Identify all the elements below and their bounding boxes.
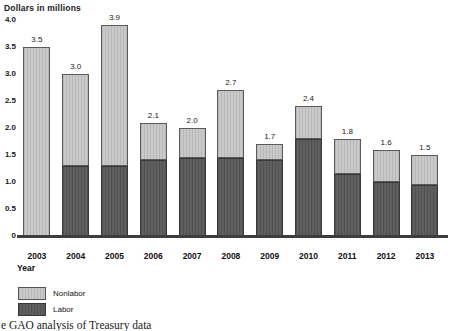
x-tick-label-2006: 2006 [134,251,173,261]
bar-2007-nonlabor-segment [179,128,206,158]
bar-2013-nonlabor-segment [411,155,438,185]
x-tick-label-2008: 2008 [212,251,251,261]
y-tick-label-3.0: 3.0 [0,69,16,79]
bar-2007-total-label: 2.0 [173,116,212,126]
bar-2012-total-label: 1.6 [367,138,406,148]
x-axis-line [17,235,448,238]
legend-swatch-nonlabor [18,287,46,300]
bar-2005-nonlabor-segment [101,25,128,165]
bar-2005-total-label: 3.9 [95,13,134,23]
bar-2005-labor-segment [101,166,128,236]
bar-2009-nonlabor-segment [256,144,283,160]
x-tick-label-2004: 2004 [56,251,95,261]
y-tick-label-1.0: 1.0 [0,177,16,187]
bar-2011-total-label: 1.8 [328,127,367,137]
x-tick-label-2012: 2012 [367,251,406,261]
bar-2006-nonlabor-segment [140,123,167,161]
x-axis-title: Year [17,263,35,273]
legend-label-labor: Labor [53,305,73,315]
bar-2010-nonlabor-segment [295,106,322,138]
x-tick-label-2009: 2009 [250,251,289,261]
bar-2006-labor-segment [140,160,167,236]
y-tick-label-0: 0 [0,231,16,241]
chart-title: Dollars in millions [4,3,81,13]
bar-2008-nonlabor-segment [217,90,244,158]
legend-swatch-labor [18,303,46,316]
bar-2012-nonlabor-segment [373,150,400,182]
bar-2009-total-label: 1.7 [250,132,289,142]
stacked-bar-chart: Dollars in millions 4.03.53.02.52.01.51.… [0,0,452,331]
bar-2003-total-label: 3.5 [18,35,57,45]
bar-2003-nonlabor-segment [23,47,50,236]
y-tick-label-2.5: 2.5 [0,96,16,106]
bar-2013-total-label: 1.5 [406,143,445,153]
x-tick-label-2013: 2013 [406,251,445,261]
bar-2004-total-label: 3.0 [56,62,95,72]
bar-2004-nonlabor-segment [62,74,89,166]
bar-2013-labor-segment [411,185,438,236]
bar-2011-nonlabor-segment [334,139,361,174]
bar-2008-labor-segment [217,158,244,236]
bar-2004-labor-segment [62,166,89,236]
bar-2008-total-label: 2.7 [212,78,251,88]
y-tick-label-2.0: 2.0 [0,123,16,133]
bar-2009-labor-segment [256,160,283,236]
y-tick-label-0.5: 0.5 [0,204,16,214]
x-tick-label-2010: 2010 [289,251,328,261]
y-tick-label-1.5: 1.5 [0,150,16,160]
bar-2010-labor-segment [295,139,322,236]
x-tick-label-2003: 2003 [18,251,57,261]
x-tick-label-2011: 2011 [328,251,367,261]
bar-2012-labor-segment [373,182,400,236]
source-note: e GAO analysis of Treasury data [1,319,151,331]
x-tick-label-2007: 2007 [173,251,212,261]
y-tick-label-4.0: 4.0 [0,15,16,25]
bar-2010-total-label: 2.4 [289,94,328,104]
x-tick-label-2005: 2005 [95,251,134,261]
legend-label-nonlabor: Nonlabor [53,289,85,299]
bar-2011-labor-segment [334,174,361,236]
y-tick-label-3.5: 3.5 [0,42,16,52]
bar-2007-labor-segment [179,158,206,236]
bar-2006-total-label: 2.1 [134,111,173,121]
